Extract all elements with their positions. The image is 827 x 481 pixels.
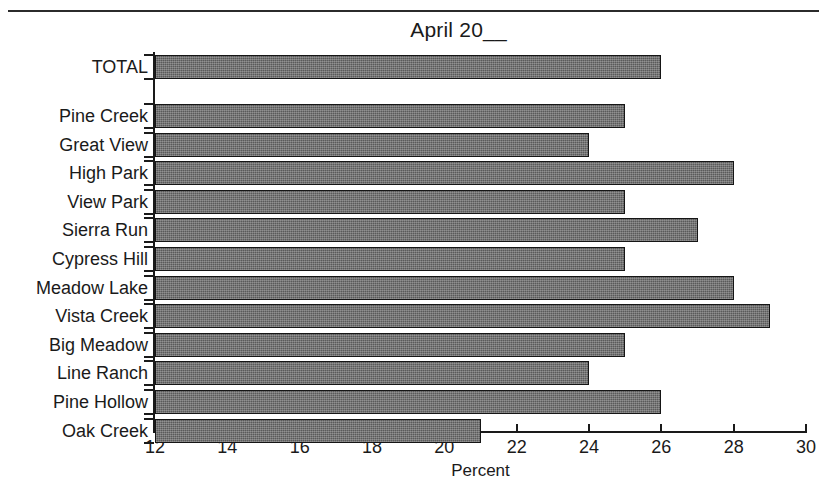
x-axis-tick-label: 26 — [631, 437, 691, 458]
bar — [155, 161, 734, 185]
y-axis-tick-mark — [144, 389, 154, 391]
y-axis-tick-mark — [144, 418, 154, 420]
x-axis-tick-mark — [733, 424, 735, 433]
bar — [155, 190, 625, 214]
y-axis-tick-label: Line Ranch — [0, 363, 148, 383]
y-axis-tick-mark — [144, 103, 154, 105]
bar-row — [155, 390, 661, 414]
bar-row — [155, 190, 625, 214]
bar-row — [155, 304, 770, 328]
y-axis-tick-label: Meadow Lake — [0, 278, 148, 298]
y-axis-tick-mark — [144, 241, 154, 243]
bar-row — [155, 247, 625, 271]
y-axis-tick-label: TOTAL — [0, 57, 148, 77]
chart-figure: April 20__ TOTALPine CreekGreat ViewHigh… — [0, 0, 827, 481]
chart-title-text: April 20__ — [410, 18, 507, 42]
y-axis-tick-mark — [144, 384, 154, 386]
bar — [155, 247, 625, 271]
bar — [155, 304, 770, 328]
bar — [155, 333, 625, 357]
bar — [155, 419, 481, 443]
y-axis-tick-label: High Park — [0, 163, 148, 183]
bar — [155, 390, 661, 414]
bar — [155, 276, 734, 300]
y-axis-tick-mark — [144, 132, 154, 134]
y-axis-tick-mark — [144, 156, 154, 158]
y-axis-tick-mark — [144, 78, 154, 80]
x-axis-tick-label: 30 — [776, 437, 827, 458]
x-axis-tick-label: 24 — [559, 437, 619, 458]
y-axis-tick-label: Sierra Run — [0, 220, 148, 240]
bar — [155, 104, 625, 128]
bar-row — [155, 333, 625, 357]
y-axis-tick-mark — [144, 189, 154, 191]
bar — [155, 361, 589, 385]
bar-row — [155, 104, 625, 128]
bar-row — [155, 133, 589, 157]
y-axis-tick-label: Great View — [0, 135, 148, 155]
x-axis-label: Percent — [155, 461, 806, 481]
y-axis-tick-mark — [144, 160, 154, 162]
y-axis-tick-mark — [144, 442, 154, 444]
y-axis-tick-mark — [144, 127, 154, 129]
y-axis-tick-label: Vista Creek — [0, 306, 148, 326]
bar-row — [155, 161, 734, 185]
y-axis-tick-mark — [144, 213, 154, 215]
y-axis-tick-label: View Park — [0, 192, 148, 212]
y-axis-tick-label: Pine Creek — [0, 106, 148, 126]
bar-row — [155, 55, 661, 79]
y-axis-tick-label: Big Meadow — [0, 335, 148, 355]
y-axis-tick-mark — [144, 246, 154, 248]
x-axis-tick-label: 22 — [487, 437, 547, 458]
x-axis-tick-label: 28 — [704, 437, 764, 458]
y-axis-tick-mark — [144, 327, 154, 329]
y-axis-tick-mark — [144, 303, 154, 305]
bar-row — [155, 419, 481, 443]
x-axis-tick-mark — [516, 424, 518, 433]
x-axis-tick-mark — [805, 424, 807, 433]
y-axis-tick-mark — [144, 54, 154, 56]
y-axis-tick-mark — [144, 184, 154, 186]
y-axis-tick-mark — [144, 356, 154, 358]
y-axis-tick-label: Cypress Hill — [0, 249, 148, 269]
bar-row — [155, 276, 734, 300]
y-axis-tick-mark — [144, 413, 154, 415]
y-axis-category-labels: TOTALPine CreekGreat ViewHigh ParkView P… — [0, 0, 148, 481]
y-axis-tick-mark — [144, 299, 154, 301]
bar — [155, 55, 661, 79]
bar-row — [155, 361, 589, 385]
y-axis-tick-mark — [144, 217, 154, 219]
y-axis-tick-label: Pine Hollow — [0, 392, 148, 412]
bar — [155, 133, 589, 157]
y-axis-tick-mark — [144, 270, 154, 272]
bar-row — [155, 218, 698, 242]
y-axis-tick-mark — [144, 360, 154, 362]
x-axis-tick-mark — [588, 424, 590, 433]
bar — [155, 218, 698, 242]
y-axis-tick-mark — [144, 275, 154, 277]
x-axis-tick-mark — [660, 424, 662, 433]
y-axis-tick-mark — [144, 332, 154, 334]
